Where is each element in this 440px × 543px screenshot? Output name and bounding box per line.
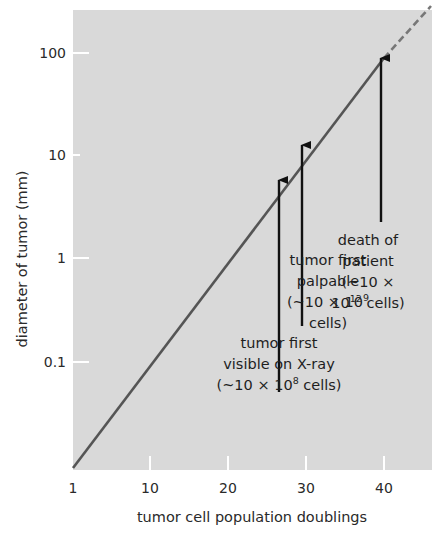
- x-tick-10: 10: [141, 480, 159, 496]
- svg-text:palpable: palpable: [297, 273, 359, 289]
- x-tick-40: 40: [375, 480, 393, 496]
- svg-text:tumor first: tumor first: [241, 335, 318, 351]
- x-tick-20: 20: [219, 480, 237, 496]
- svg-text:(~10 × 109: (~10 × 109: [287, 292, 369, 310]
- x-tick-30: 30: [297, 480, 315, 496]
- x-axis-title: tumor cell population doublings: [137, 509, 367, 525]
- y-tick-100: 100: [39, 45, 66, 61]
- y-tick-labels: 100 10 1 0.1: [39, 45, 66, 370]
- x-tick-1: 1: [69, 480, 78, 496]
- svg-text:(~10 × 108 cells): (~10 × 108 cells): [217, 375, 342, 393]
- svg-text:visible on X-ray: visible on X-ray: [223, 356, 335, 372]
- svg-text:tumor first: tumor first: [290, 252, 367, 268]
- svg-text:death of: death of: [338, 232, 399, 248]
- x-tick-labels: 1 10 20 30 40: [69, 480, 393, 496]
- y-axis-title: diameter of tumor (mm): [14, 171, 30, 348]
- y-tick-1: 1: [57, 250, 66, 266]
- y-tick-0.1: 0.1: [44, 354, 66, 370]
- tumor-growth-chart: 100 10 1 0.1 1 10 20 30 40 tumor cell po…: [0, 0, 440, 543]
- svg-text:cells): cells): [309, 315, 347, 331]
- y-tick-10: 10: [48, 147, 66, 163]
